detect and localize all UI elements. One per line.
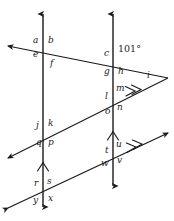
angle-label-r: r xyxy=(34,179,38,188)
parallel-mark-double-bottom-first xyxy=(127,143,137,153)
transversal-bottom-line xyxy=(8,133,168,208)
angle-label-s: s xyxy=(47,177,52,186)
angle-label-t: t xyxy=(105,146,109,155)
geometry-diagram-canvas xyxy=(0,0,174,221)
angle-label-p: p xyxy=(48,138,54,147)
angle-label-f: f xyxy=(50,59,53,68)
angle-label-h: h xyxy=(118,67,124,76)
parallel-marks-group xyxy=(38,85,143,171)
angle-label-u: u xyxy=(116,140,122,149)
angle-label-v: v xyxy=(117,156,122,165)
geometry-figure: 101° a b e f c g h i m l n o j k q p u t… xyxy=(0,0,174,221)
angle-label-g: g xyxy=(104,67,110,76)
transversal-middle-line xyxy=(8,78,168,158)
angle-label-y: y xyxy=(33,196,38,205)
angle-label-n: n xyxy=(117,103,123,112)
transversal-lines-group xyxy=(8,46,168,208)
angle-label-l: l xyxy=(105,92,108,101)
angle-label-w: w xyxy=(101,159,109,168)
angle-label-j: j xyxy=(36,121,39,130)
angle-measure-101: 101° xyxy=(118,44,141,54)
angle-label-e: e xyxy=(33,50,38,59)
angle-label-c: c xyxy=(104,49,109,58)
transversal-top-line xyxy=(8,46,168,78)
angle-label-a: a xyxy=(33,36,38,45)
angle-label-q: q xyxy=(36,138,42,147)
angle-label-k: k xyxy=(48,119,53,128)
angle-label-x: x xyxy=(48,194,53,203)
angle-label-m: m xyxy=(116,84,125,93)
angle-label-i: i xyxy=(147,71,150,80)
angle-label-o: o xyxy=(105,107,110,116)
angle-label-b: b xyxy=(48,36,54,45)
